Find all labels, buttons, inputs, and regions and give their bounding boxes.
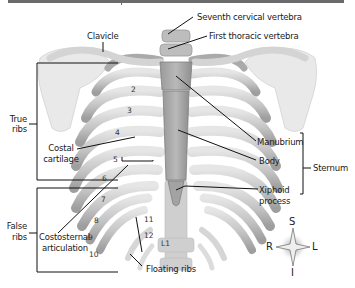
- compass-left: L: [312, 242, 318, 252]
- label-clavicle: Clavicle: [87, 31, 119, 41]
- rib-number-12: 12: [144, 232, 154, 240]
- compass-superior: S: [289, 217, 295, 227]
- label-costosternal-line2: articulation: [42, 243, 88, 253]
- label-xiphoid-line1: Xiphoid: [259, 185, 290, 195]
- label-sternum: Sternum: [313, 163, 348, 173]
- label-floating-ribs: Floating ribs: [146, 264, 196, 274]
- label-manubrium: Manubrium: [257, 137, 303, 147]
- rib-number-3: 3: [127, 107, 132, 115]
- compass-right: R: [266, 242, 273, 252]
- label-true-ribs-line1: True: [5, 114, 27, 124]
- label-true-ribs-line2: ribs: [5, 124, 27, 134]
- label-first-thoracic-vertebra: First thoracic vertebra: [209, 31, 298, 41]
- rib-number-6: 6: [102, 175, 107, 183]
- rib-number-10: 10: [89, 251, 99, 259]
- rib-number-9: 9: [88, 234, 93, 242]
- label-xiphoid-line2: process: [259, 196, 290, 206]
- rib-number-7: 7: [101, 196, 106, 204]
- label-costal-cartilage-line2: cartilage: [40, 154, 82, 164]
- rib-number-8: 8: [94, 217, 99, 225]
- label-costal-cartilage-line1: Costal: [40, 143, 82, 153]
- rib-number-5: 5: [113, 156, 118, 164]
- rib-number-11: 11: [144, 216, 154, 224]
- label-body: Body: [259, 156, 280, 166]
- label-costosternal-line1: Costosternal: [39, 232, 90, 242]
- rib-number-4: 4: [115, 129, 120, 137]
- label-false-ribs-line2: ribs: [3, 232, 27, 242]
- label-false-ribs-line1: False: [3, 221, 27, 231]
- vertebra-label-l1: L1: [161, 240, 170, 248]
- compass-inferior: I: [291, 268, 294, 278]
- rib-number-2: 2: [131, 86, 136, 94]
- label-seventh-cervical-vertebra: Seventh cervical vertebra: [197, 12, 302, 22]
